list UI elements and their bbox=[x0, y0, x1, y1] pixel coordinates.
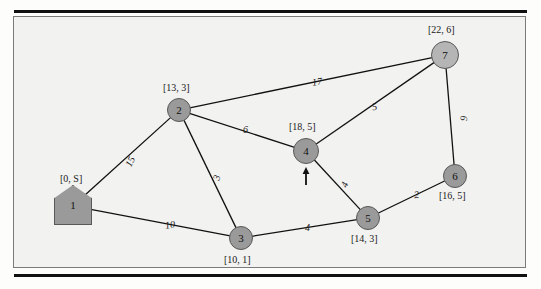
figure-page: 1234567 [0, S][13, 3][10, 1][18, 5][14, … bbox=[0, 0, 541, 289]
graph-node-6-id: 6 bbox=[452, 170, 458, 182]
current-node-arrow bbox=[303, 167, 310, 185]
edge-weight-6-7: 9 bbox=[458, 116, 469, 121]
graph-node-1-bracket-label: [0, S] bbox=[60, 173, 82, 184]
graph-node-2-bracket-label: [13, 3] bbox=[163, 82, 190, 93]
graph-node-3-bracket-label: [10, 1] bbox=[224, 254, 251, 265]
graph-node-4-bracket-label: [18, 5] bbox=[289, 121, 316, 132]
edge-weight-1-3: 10 bbox=[164, 218, 175, 230]
graph-node-3-id: 3 bbox=[238, 232, 244, 244]
edge-2-3 bbox=[184, 120, 236, 228]
graph-node-7-id: 7 bbox=[442, 49, 448, 61]
graph-node-4-id: 4 bbox=[303, 145, 309, 157]
graph-canvas bbox=[0, 0, 541, 289]
graph-node-6[interactable]: 6 bbox=[443, 164, 467, 188]
graph-node-7[interactable]: 7 bbox=[431, 41, 459, 69]
graph-node-5-id: 5 bbox=[365, 212, 371, 224]
graph-node-6-bracket-label: [16, 5] bbox=[439, 190, 466, 201]
graph-node-5[interactable]: 5 bbox=[356, 206, 380, 230]
edge-weight-3-5: 4 bbox=[305, 222, 310, 233]
edge-6-7 bbox=[446, 68, 454, 165]
edge-layer bbox=[83, 58, 454, 237]
graph-node-3[interactable]: 3 bbox=[229, 226, 253, 250]
edge-5-6 bbox=[378, 181, 445, 213]
edge-2-7 bbox=[190, 58, 432, 108]
graph-node-5-bracket-label: [14, 3] bbox=[351, 233, 378, 244]
graph-node-1-id: 1 bbox=[70, 199, 76, 211]
graph-node-2[interactable]: 2 bbox=[167, 98, 191, 122]
graph-node-7-bracket-label: [22, 6] bbox=[428, 24, 455, 35]
graph-node-2-id: 2 bbox=[176, 104, 182, 116]
edge-weight-2-7: 17 bbox=[311, 75, 322, 87]
edge-4-5 bbox=[314, 160, 360, 210]
edge-weight-2-4: 6 bbox=[243, 124, 248, 135]
edge-1-3 bbox=[87, 209, 230, 236]
annotation-layer bbox=[303, 167, 310, 185]
graph-node-4[interactable]: 4 bbox=[293, 138, 319, 164]
